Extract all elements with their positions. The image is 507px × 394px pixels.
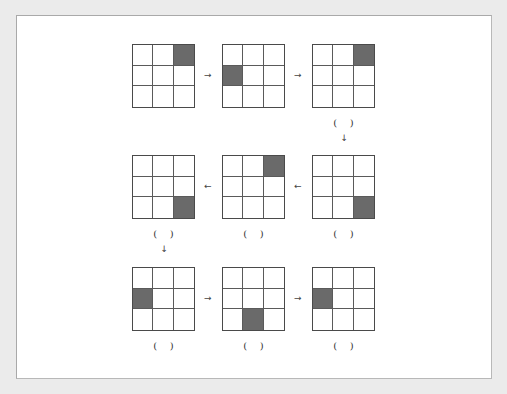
- empty-cell: [133, 86, 153, 107]
- empty-cell: [133, 177, 153, 198]
- answer-blank: ( ): [329, 229, 359, 239]
- filled-cell: [133, 289, 153, 310]
- empty-cell: [243, 268, 263, 289]
- empty-cell: [153, 45, 173, 66]
- answer-blank: ( ): [149, 341, 179, 351]
- empty-cell: [133, 197, 153, 218]
- filled-cell: [174, 45, 194, 66]
- empty-cell: [153, 309, 173, 330]
- empty-cell: [264, 309, 284, 330]
- answer-blank: ( ): [239, 341, 269, 351]
- answer-blank: ( ): [239, 229, 269, 239]
- empty-cell: [133, 268, 153, 289]
- empty-cell: [223, 156, 243, 177]
- filled-cell: [223, 66, 243, 87]
- grid-r3-c3: [312, 267, 375, 331]
- empty-cell: [243, 289, 263, 310]
- empty-cell: [174, 156, 194, 177]
- empty-cell: [174, 289, 194, 310]
- empty-cell: [174, 309, 194, 330]
- empty-cell: [313, 197, 333, 218]
- empty-cell: [153, 66, 173, 87]
- empty-cell: [354, 86, 374, 107]
- grid-r2-c3: [312, 155, 375, 219]
- filled-cell: [264, 156, 284, 177]
- empty-cell: [354, 156, 374, 177]
- empty-cell: [333, 289, 353, 310]
- empty-cell: [223, 309, 243, 330]
- empty-cell: [223, 86, 243, 107]
- empty-cell: [333, 86, 353, 107]
- empty-cell: [243, 66, 263, 87]
- answer-blank: ( ): [149, 229, 179, 239]
- empty-cell: [333, 156, 353, 177]
- arrow-right-icon: →: [294, 71, 302, 80]
- grid-r1-c1: [132, 44, 195, 108]
- empty-cell: [354, 268, 374, 289]
- empty-cell: [313, 156, 333, 177]
- empty-cell: [133, 66, 153, 87]
- empty-cell: [313, 268, 333, 289]
- empty-cell: [133, 309, 153, 330]
- empty-cell: [153, 86, 173, 107]
- empty-cell: [243, 86, 263, 107]
- empty-cell: [264, 268, 284, 289]
- empty-cell: [243, 177, 263, 198]
- empty-cell: [243, 197, 263, 218]
- empty-cell: [133, 45, 153, 66]
- empty-cell: [264, 45, 284, 66]
- empty-cell: [153, 289, 173, 310]
- empty-cell: [333, 309, 353, 330]
- empty-cell: [333, 45, 353, 66]
- empty-cell: [313, 309, 333, 330]
- filled-cell: [174, 197, 194, 218]
- filled-cell: [313, 289, 333, 310]
- answer-blank: ( ): [329, 341, 359, 351]
- empty-cell: [174, 268, 194, 289]
- filled-cell: [354, 45, 374, 66]
- empty-cell: [333, 66, 353, 87]
- arrow-right-icon: →: [204, 294, 212, 303]
- empty-cell: [313, 66, 333, 87]
- empty-cell: [264, 289, 284, 310]
- empty-cell: [174, 66, 194, 87]
- empty-cell: [153, 197, 173, 218]
- empty-cell: [354, 66, 374, 87]
- empty-cell: [223, 45, 243, 66]
- empty-cell: [223, 197, 243, 218]
- answer-blank: ( ): [329, 118, 359, 128]
- empty-cell: [174, 177, 194, 198]
- arrow-right-icon: →: [204, 71, 212, 80]
- grid-r3-c2: [222, 267, 285, 331]
- filled-cell: [354, 197, 374, 218]
- empty-cell: [174, 86, 194, 107]
- grid-r3-c1: [132, 267, 195, 331]
- filled-cell: [243, 309, 263, 330]
- arrow-down-icon: ↓: [341, 134, 349, 143]
- grid-r1-c3: [312, 44, 375, 108]
- empty-cell: [264, 197, 284, 218]
- empty-cell: [153, 177, 173, 198]
- arrow-left-icon: ←: [204, 182, 212, 191]
- grid-r1-c2: [222, 44, 285, 108]
- grid-r2-c1: [132, 155, 195, 219]
- empty-cell: [313, 86, 333, 107]
- empty-cell: [264, 177, 284, 198]
- empty-cell: [354, 289, 374, 310]
- empty-cell: [223, 177, 243, 198]
- empty-cell: [153, 268, 173, 289]
- empty-cell: [264, 66, 284, 87]
- empty-cell: [264, 86, 284, 107]
- arrow-right-icon: →: [294, 294, 302, 303]
- arrow-left-icon: ←: [294, 182, 302, 191]
- empty-cell: [333, 197, 353, 218]
- grid-r2-c2: [222, 155, 285, 219]
- empty-cell: [223, 268, 243, 289]
- empty-cell: [133, 156, 153, 177]
- empty-cell: [333, 268, 353, 289]
- empty-cell: [243, 45, 263, 66]
- empty-cell: [223, 289, 243, 310]
- empty-cell: [153, 156, 173, 177]
- empty-cell: [313, 177, 333, 198]
- empty-cell: [313, 45, 333, 66]
